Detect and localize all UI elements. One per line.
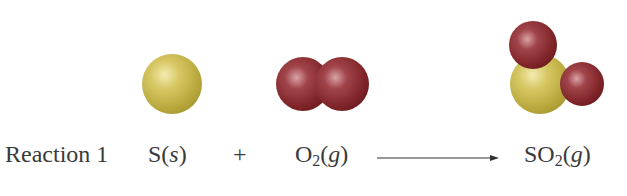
reactant-oxygen: O2(g) xyxy=(295,139,348,169)
state: g xyxy=(328,141,340,167)
paren: ) xyxy=(179,141,187,167)
state: g xyxy=(571,141,583,167)
paren: ) xyxy=(340,141,348,167)
product-sulfur-dioxide: SO2(g) xyxy=(524,139,591,169)
paren: ( xyxy=(563,141,571,167)
paren: ) xyxy=(583,141,591,167)
plus-operator: + xyxy=(233,139,247,169)
reaction-diagram: Reaction 1 S(s) + O2(g) SO2(g) xyxy=(0,0,627,196)
formula: S xyxy=(148,141,161,167)
oxygen-molecule-model xyxy=(276,57,369,111)
reaction-label: Reaction 1 xyxy=(5,139,108,169)
subscript: 2 xyxy=(555,152,563,169)
state: s xyxy=(169,141,178,167)
formula: O xyxy=(295,141,312,167)
formula: SO xyxy=(524,141,555,167)
sulfur-atom-model xyxy=(142,54,202,114)
sulfur-dioxide-model xyxy=(509,21,604,114)
reaction-arrow-icon xyxy=(377,154,499,162)
reactant-sulfur: S(s) xyxy=(148,139,187,169)
